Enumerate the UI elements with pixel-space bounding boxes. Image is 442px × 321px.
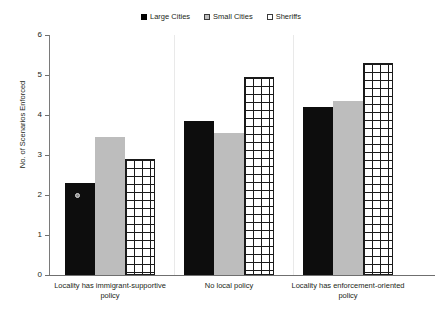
y-tick-mark: [45, 195, 49, 196]
bar-small-cities-group-3: [333, 101, 363, 275]
y-tick-mark: [45, 75, 49, 76]
y-axis-title: No. of Scenarios Enforced: [18, 40, 27, 210]
y-tick-mark: [45, 235, 49, 236]
group-separator: [174, 35, 175, 275]
bar-large-cities-group-1: [65, 183, 95, 275]
x-axis-line: [49, 275, 435, 276]
bar-large-cities-group-2: [184, 121, 214, 275]
y-tick-label: 5: [24, 71, 42, 79]
y-tick-label: 3: [24, 151, 42, 159]
y-tick-label: 2: [24, 191, 42, 199]
group-separator: [293, 35, 294, 275]
bar-sheriffs-group-1: [125, 159, 155, 275]
y-tick-mark: [45, 115, 49, 116]
y-tick-mark: [45, 155, 49, 156]
y-tick-label: 1: [24, 231, 42, 239]
y-tick-label: 6: [24, 31, 42, 39]
y-tick-mark: [45, 275, 49, 276]
bar-large-cities-group-3: [303, 107, 333, 275]
x-axis-category-line: policy: [30, 291, 190, 301]
x-axis-category-line: Locality has enforcement-oriented: [268, 281, 428, 291]
bar-small-cities-group-1: [95, 137, 125, 275]
bar-sheriffs-group-2: [244, 77, 274, 275]
x-axis-category-line: policy: [268, 291, 428, 301]
y-axis-line: [49, 35, 50, 276]
bar-sheriffs-group-3: [363, 63, 393, 275]
bar-chart: No. of Scenarios Enforced 6543210 Locali…: [0, 0, 442, 321]
data-point-marker-icon: [75, 193, 80, 198]
y-tick-label: 0: [24, 271, 42, 279]
bar-small-cities-group-2: [214, 133, 244, 275]
x-axis-category-label: Locality has enforcement-orientedpolicy: [268, 281, 428, 301]
y-tick-mark: [45, 35, 49, 36]
y-tick-label: 4: [24, 111, 42, 119]
